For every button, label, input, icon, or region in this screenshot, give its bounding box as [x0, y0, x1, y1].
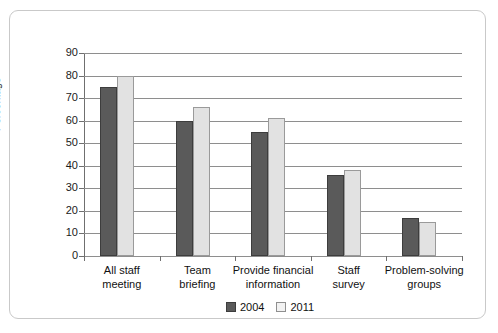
y-axis-tick-label: 60	[52, 115, 78, 126]
bar-2004-2	[251, 132, 268, 256]
legend-label-2004: 2004	[240, 301, 264, 313]
legend-item-2011: 2011	[276, 301, 314, 313]
y-axis-tick-label: 40	[52, 160, 78, 171]
y-axis-title: Percentage	[0, 77, 2, 131]
bar-group	[311, 53, 387, 256]
legend-item-2004: 2004	[226, 301, 264, 313]
bar-2004-4	[402, 218, 419, 256]
y-axis-tick-label: 70	[52, 92, 78, 103]
bar-group	[235, 53, 311, 256]
bar-group	[386, 53, 462, 256]
bar-2011-2	[268, 118, 285, 256]
x-axis-tickmark	[235, 256, 236, 261]
x-axis-tickmark	[160, 256, 161, 261]
bar-2011-1	[193, 107, 210, 256]
y-axis-tick-label: 80	[52, 70, 78, 81]
plot-area	[84, 53, 462, 256]
bar-2011-3	[344, 170, 361, 256]
bar-group	[160, 53, 236, 256]
legend-swatch-2004	[226, 302, 236, 312]
bar-2004-3	[327, 175, 344, 256]
x-axis-tickmark	[386, 256, 387, 261]
bar-2011-4	[419, 222, 436, 256]
x-axis-category-label: Problem-solvinggroups	[376, 263, 472, 291]
y-axis-tick-label: 20	[52, 205, 78, 216]
legend-label-2011: 2011	[290, 301, 314, 313]
x-axis-tickmark	[84, 256, 85, 261]
bar-2011-0	[117, 76, 134, 256]
y-axis-tick-label: 0	[52, 250, 78, 261]
chart-card: Percentage 0102030405060708090 All staff…	[9, 10, 486, 319]
bar-group	[84, 53, 160, 256]
x-axis-tickmark	[311, 256, 312, 261]
y-axis-tick-label: 90	[52, 47, 78, 58]
legend-swatch-2011	[276, 302, 286, 312]
chart-legend: 2004 2011	[226, 301, 320, 313]
gridline	[84, 256, 462, 257]
x-axis-tickmark-end	[462, 256, 463, 261]
y-axis-tick-label: 10	[52, 227, 78, 238]
y-axis-tick-label: 50	[52, 137, 78, 148]
bar-2004-1	[176, 121, 193, 256]
y-axis-tick-label: 30	[52, 182, 78, 193]
bar-2004-0	[100, 87, 117, 256]
